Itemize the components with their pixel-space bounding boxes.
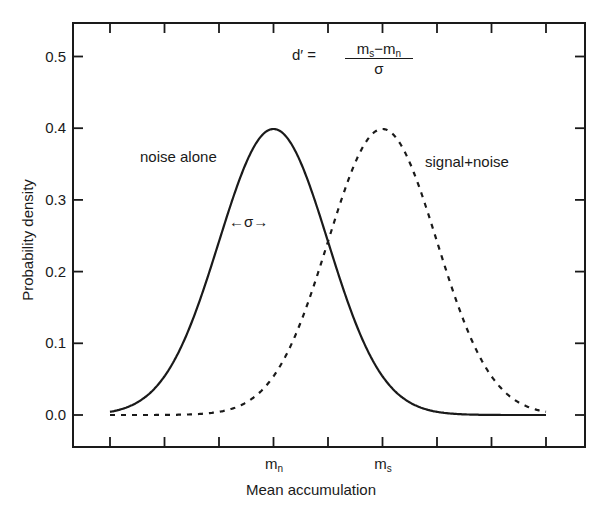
dprime-formula-fraction: ms−mn σ	[345, 40, 413, 77]
sigma-width-marker: ←σ→	[229, 213, 268, 230]
formula-numerator: ms−mn	[345, 40, 413, 59]
y-tick-label: 0.5	[26, 48, 66, 65]
x-axis-label: Mean accumulation	[246, 481, 376, 498]
y-axis-label: Probability density	[19, 179, 36, 301]
formula-denominator: σ	[345, 60, 413, 77]
noise-alone-label: noise alone	[140, 148, 217, 165]
y-tick-label: 0.0	[26, 406, 66, 423]
chart-plot-area	[0, 0, 603, 506]
num-ms-sub: s	[369, 48, 374, 59]
mn-base: m	[265, 455, 278, 472]
axis-ticks	[73, 23, 585, 447]
y-tick-label: 0.4	[26, 119, 66, 136]
y-tick-label: 0.1	[26, 334, 66, 351]
x-tick-label-mn: mn	[265, 455, 283, 472]
noise-alone-curve	[110, 129, 546, 415]
signal-plus-noise-curve	[110, 129, 546, 415]
num-mn-sub: n	[396, 48, 402, 59]
ms-sub: s	[387, 463, 392, 474]
ms-base: m	[374, 455, 387, 472]
num-minus-mn: −m	[374, 40, 395, 57]
dprime-formula-lhs: d′ =	[292, 46, 316, 63]
x-tick-label-ms: ms	[374, 455, 392, 472]
num-ms-base: m	[357, 40, 370, 57]
mn-sub: n	[277, 463, 283, 474]
plot-frame	[73, 23, 585, 447]
signal-noise-label: signal+noise	[425, 153, 509, 170]
